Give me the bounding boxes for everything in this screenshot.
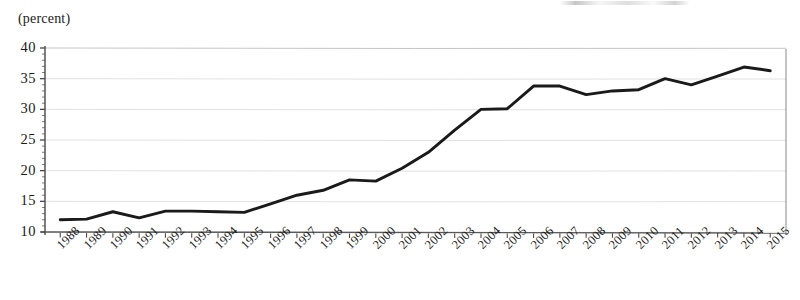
y-tick-label-30: 30 — [2, 100, 36, 117]
y-tick-label-15: 15 — [2, 192, 36, 209]
y-tick-label-10: 10 — [2, 223, 36, 240]
data-series-group — [60, 67, 770, 220]
line-chart-plot — [0, 0, 800, 300]
chart-container: (percent) 10152025303540 198819891990199… — [0, 0, 800, 300]
y-tick-label-20: 20 — [2, 162, 36, 179]
y-tick-label-25: 25 — [2, 131, 36, 148]
y-tick-label-40: 40 — [2, 39, 36, 56]
y-tick-label-35: 35 — [2, 70, 36, 87]
data-line-series — [60, 67, 770, 220]
gridlines-group — [45, 48, 786, 232]
